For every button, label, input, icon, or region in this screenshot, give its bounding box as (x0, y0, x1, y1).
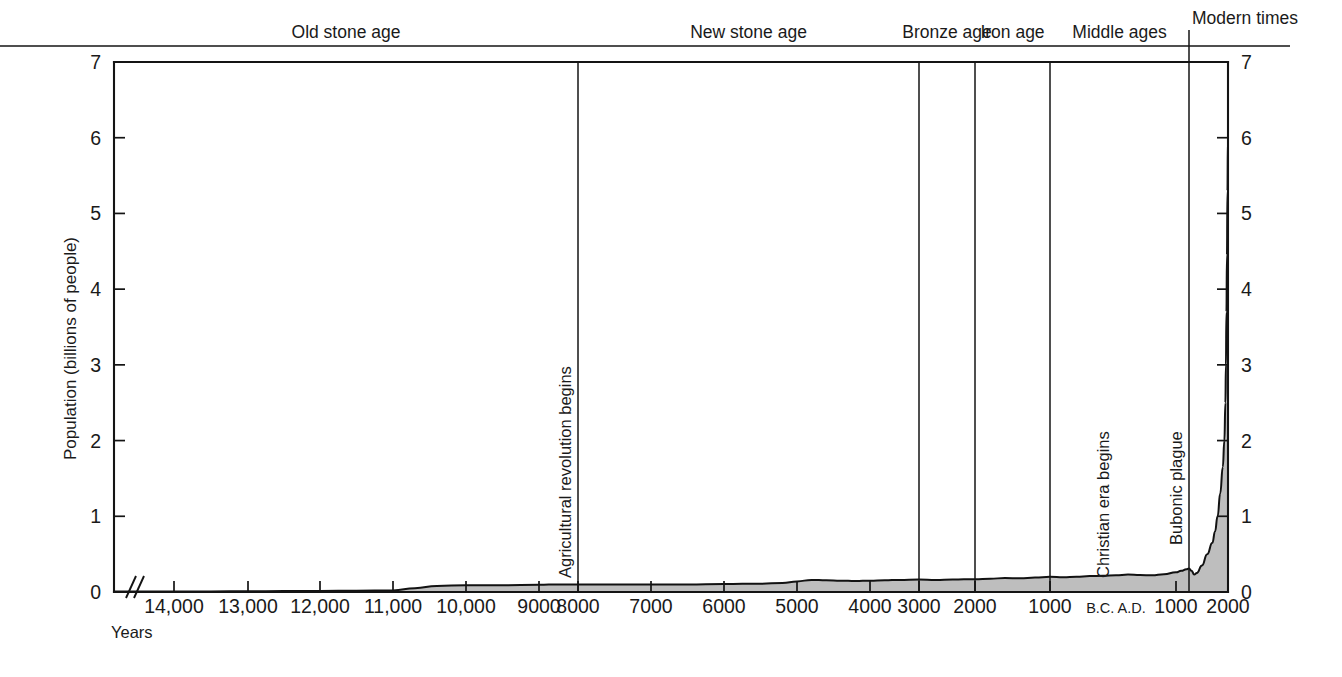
population-chart-figure: Old stone ageNew stone ageBronze ageIron… (0, 0, 1342, 677)
x-tick-label: B.C. A.D. (1086, 600, 1146, 616)
era-header-group: Old stone ageNew stone ageBronze ageIron… (0, 8, 1298, 62)
y-tick-label-left: 5 (90, 202, 101, 224)
vertical-annotation-label: Christian era begins (1094, 431, 1112, 578)
y-tick-label-left: 0 (90, 581, 101, 603)
x-tick-label: 6000 (702, 595, 746, 617)
x-tick-label: 10,000 (436, 595, 496, 617)
population-chart-svg: Old stone ageNew stone ageBronze ageIron… (0, 0, 1342, 677)
era-label: Bronze age (902, 22, 992, 42)
x-tick-label: 7000 (629, 595, 673, 617)
population-curve-line (114, 138, 1228, 592)
era-labels-group: Old stone ageNew stone ageBronze ageIron… (292, 8, 1299, 42)
y-tick-label-left: 2 (90, 430, 101, 452)
y-tick-label-right: 3 (1241, 354, 1252, 376)
x-tick-label: 11,000 (364, 595, 422, 617)
axes-group: 01234567 01234567 14,00013,00012,00011,0… (90, 51, 1252, 617)
x-tick-label: 9000 (517, 595, 561, 617)
y-tick-label-right: 7 (1241, 51, 1252, 73)
vertical-annotations-group: Agricultural revolution beginsChristian … (556, 366, 1185, 578)
x-tick-label: 1000 (1028, 595, 1072, 617)
x-tick-label: 2000 (1206, 595, 1250, 617)
plot-area-group (114, 138, 1228, 592)
x-tick-label: 3000 (897, 595, 941, 617)
x-tick-label: 4000 (848, 595, 892, 617)
y-tick-label-left: 4 (90, 278, 101, 300)
era-label: Modern times (1192, 8, 1298, 28)
vertical-annotation-label: Agricultural revolution begins (556, 366, 574, 578)
y-tick-label-right: 1 (1241, 505, 1252, 527)
x-tick-label: 12,000 (290, 595, 350, 617)
y-tick-label-right: 6 (1241, 127, 1252, 149)
x-tick-label: 2000 (953, 595, 997, 617)
y-tick-label-right: 5 (1241, 202, 1252, 224)
y-axis-title: Population (billions of people) (61, 237, 80, 460)
x-axis-break-mark (126, 576, 144, 598)
x-tick-label: 1000 (1154, 595, 1198, 617)
y-axis-ticks-left: 01234567 (90, 51, 125, 603)
x-tick-label: 14,000 (144, 595, 204, 617)
y-tick-label-left: 6 (90, 127, 101, 149)
y-tick-label-left: 3 (90, 354, 101, 376)
y-tick-label-right: 4 (1241, 278, 1252, 300)
x-tick-label: 8000 (556, 595, 600, 617)
x-tick-label: 13,000 (218, 595, 278, 617)
y-tick-label-left: 7 (90, 51, 101, 73)
vertical-annotation-label: Bubonic plague (1167, 431, 1185, 545)
y-tick-label-left: 1 (90, 505, 101, 527)
population-area-fill (114, 138, 1228, 592)
y-tick-label-right: 2 (1241, 430, 1252, 452)
era-label: Iron age (980, 22, 1044, 42)
era-label: Old stone age (292, 22, 401, 42)
era-label: New stone age (690, 22, 807, 42)
x-axis-title: Years (111, 623, 153, 641)
x-tick-label: 5000 (775, 595, 819, 617)
era-label: Middle ages (1072, 22, 1167, 42)
